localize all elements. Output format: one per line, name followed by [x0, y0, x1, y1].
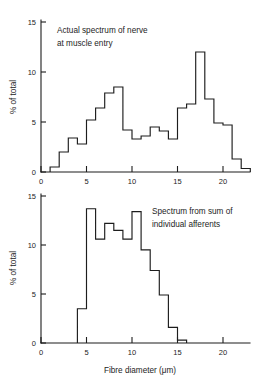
top-ytick-label-5: 5: [32, 118, 36, 127]
bottom-ytick-label-0: 0: [32, 339, 36, 348]
top-y-ticks: [41, 22, 46, 172]
bottom-y-ticks: [41, 196, 46, 343]
bottom-xtick-label-15: 15: [173, 348, 181, 357]
bottom-xtick-label-0: 0: [39, 348, 43, 357]
bottom-annotation-line-1: Spectrum from sum of: [152, 207, 233, 216]
bottom-xtick-label-5: 5: [84, 348, 88, 357]
top-chart-svg: 0 5 10 15 0 5 10 15 20 % of total Actual…: [0, 0, 264, 192]
chart-panel-bottom: 0 5 10 15 0 5 10 15 20 % of total Fibre …: [0, 186, 264, 384]
top-y-axis-title: % of total: [9, 80, 18, 114]
top-xtick-label-15: 15: [173, 177, 181, 186]
bottom-xtick-label-10: 10: [128, 348, 136, 357]
chart-panel-top: 0 5 10 15 0 5 10 15 20 % of total Actual…: [0, 0, 264, 192]
bottom-ytick-label-15: 15: [28, 192, 36, 201]
top-x-ticks: [41, 166, 223, 172]
top-ytick-label-0: 0: [32, 168, 36, 177]
top-xtick-label-0: 0: [39, 177, 43, 186]
top-histogram-outline: [50, 52, 250, 172]
bottom-ytick-label-10: 10: [28, 241, 36, 250]
top-annotation-line-1: Actual spectrum of nerve: [57, 26, 148, 35]
top-xtick-label-5: 5: [84, 177, 88, 186]
bottom-x-ticks: [41, 337, 223, 343]
figure-fibre-diameter-spectra: 0 5 10 15 0 5 10 15 20 % of total Actual…: [0, 0, 264, 384]
top-annotation-line-2: at muscle entry: [57, 39, 113, 48]
top-ytick-label-15: 15: [28, 18, 36, 27]
top-xtick-label-10: 10: [128, 177, 136, 186]
bottom-annotation-line-2: individual afferents: [152, 220, 220, 229]
bottom-ytick-label-5: 5: [32, 290, 36, 299]
top-ytick-label-10: 10: [28, 68, 36, 77]
bottom-y-axis-title: % of total: [9, 251, 18, 285]
top-xtick-label-20: 20: [219, 177, 227, 186]
bottom-chart-svg: 0 5 10 15 0 5 10 15 20 % of total Fibre …: [0, 186, 264, 384]
bottom-xtick-label-20: 20: [219, 348, 227, 357]
x-axis-title: Fibre diameter (μm): [104, 366, 176, 375]
